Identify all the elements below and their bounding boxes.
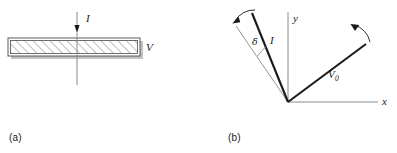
panel-b-caption: (b) (228, 132, 241, 143)
slab-hatched-region (11, 41, 138, 54)
rotation-arrowhead-current-icon (232, 17, 240, 24)
voltage-vector (288, 44, 366, 102)
panel-b-current-label: I (269, 34, 275, 46)
x-axis-label: x (381, 95, 387, 107)
panel-b-voltage-sublabel: 0 (335, 74, 339, 83)
panel-b-phasor-diagram: δ I V 0 y x (b) (190, 0, 397, 153)
panel-a-slab-diagram: I V (a) (0, 0, 200, 153)
angle-arc-delta (258, 47, 266, 57)
panel-a-voltage-label: V (146, 41, 154, 53)
angle-label-delta: δ (252, 36, 258, 47)
y-axis-label: y (292, 12, 298, 24)
panel-b-canvas: δ I V 0 y x (190, 0, 397, 153)
panel-a-caption: (a) (9, 132, 22, 143)
current-arrowhead-icon (74, 25, 79, 33)
figure-root: I V (a) δ (0, 0, 397, 153)
rotation-arrowhead-voltage-icon (351, 24, 360, 31)
panel-a-canvas: I V (0, 0, 200, 153)
panel-a-current-label: I (85, 12, 91, 24)
